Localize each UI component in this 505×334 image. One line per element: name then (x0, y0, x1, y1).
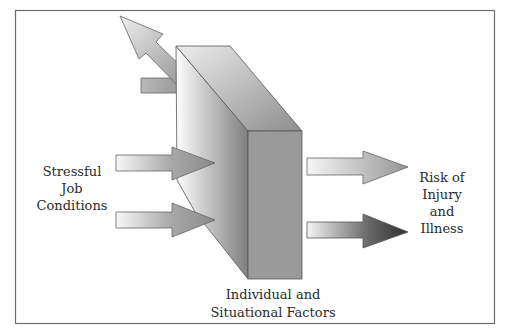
label-line: Situational Factors (203, 304, 343, 322)
label-line: Injury (402, 186, 482, 203)
block-front-face (248, 131, 302, 279)
individual-situational-factors-label: Individual and Situational Factors (203, 286, 343, 322)
risk-of-injury-label: Risk of Injury and Illness (402, 169, 482, 237)
stressful-job-conditions-label: Stressful Job Conditions (32, 163, 112, 214)
label-line: Job (32, 180, 112, 197)
label-line: Individual and (203, 286, 343, 304)
label-line: Conditions (32, 197, 112, 214)
label-line: Stressful (32, 163, 112, 180)
label-line: Illness (402, 220, 482, 237)
label-line: Risk of (402, 169, 482, 186)
label-line: and (402, 203, 482, 220)
